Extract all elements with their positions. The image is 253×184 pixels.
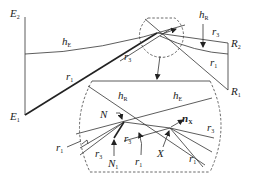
inset-ray-r1-left [80, 122, 124, 148]
inset-hE-line [76, 98, 212, 134]
r1-left-leader [67, 141, 81, 147]
inset-ray-N-to-X [124, 122, 170, 128]
ray-r1-incident [25, 33, 157, 115]
label-hE-top: hE [62, 35, 72, 48]
inset-hR-line [88, 86, 205, 165]
label-R2: R2 [230, 37, 241, 50]
ray-geometry-diagram: E2 E1 R2 R1 hE hR r1 r3 r3 r1 [0, 0, 253, 184]
label-hE-inset: hE [173, 89, 183, 102]
label-r1-top-right: r1 [210, 56, 217, 69]
label-N1: N1 [107, 157, 118, 170]
hR-curve [160, 36, 228, 54]
magnifier-circle [140, 18, 184, 57]
label-N: N [99, 108, 108, 120]
inset-left-border [79, 81, 92, 172]
hE-curve [25, 25, 185, 54]
label-r3-top-mid: r3 [124, 50, 131, 63]
label-X: X [156, 147, 165, 159]
inset-right-border [210, 81, 221, 172]
label-r3-inset-mid: r3 [124, 132, 131, 145]
label-E2: E2 [9, 7, 20, 20]
label-r3-top-right: r3 [212, 25, 219, 38]
label-r1-top-left: r1 [66, 70, 73, 83]
label-hR-top: hR [199, 8, 209, 21]
label-r3-inset-right: r3 [207, 121, 214, 134]
label-nX: nX [182, 112, 193, 125]
inset-ray-r1-right [170, 128, 203, 167]
inset-ray-out-mid [170, 128, 212, 152]
label-r1-inset-mid: r1 [135, 155, 142, 168]
label-hR-inset: hR [118, 89, 128, 102]
X-arrow [163, 131, 169, 147]
label-r3-inset-left: r3 [95, 147, 102, 160]
zoom-arrow [157, 56, 160, 79]
inset-diagram: hR hE N N1 nX X r1 r3 r3 r1 r3 r1 [56, 81, 221, 172]
label-r1-inset-left: r1 [56, 141, 63, 154]
inset-surface-segment [114, 122, 124, 138]
main-diagram: E2 E1 R2 R1 hE hR r1 r3 r3 r1 [9, 7, 241, 123]
label-E1: E1 [9, 110, 20, 123]
label-R1: R1 [230, 85, 241, 98]
label-r1-inset-right: r1 [189, 152, 196, 165]
N-arrow [116, 113, 122, 119]
